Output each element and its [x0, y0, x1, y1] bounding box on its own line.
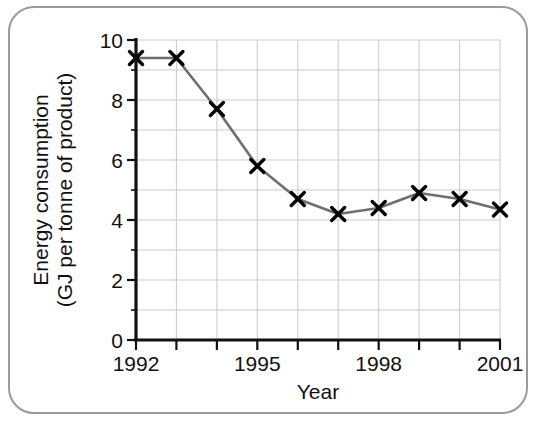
x-tick-label-1995: 1995 — [234, 352, 281, 375]
x-tick-label-1992: 1992 — [113, 352, 160, 375]
y-tick-label-2: 2 — [111, 269, 123, 292]
y-tick-label-8: 8 — [111, 89, 123, 112]
y-tick-label-10: 10 — [100, 29, 123, 52]
x-axis-title: Year — [297, 380, 339, 403]
y-axis-title-line2: (GJ per tonne of product) — [53, 73, 76, 308]
y-gridlines — [136, 40, 500, 310]
y-tick-label-6: 6 — [111, 149, 123, 172]
data-series-line — [136, 58, 500, 214]
y-tick-label-4: 4 — [111, 209, 123, 232]
figure-root: 10 8 6 4 2 0 1992 1995 1998 2001 Year En… — [0, 0, 544, 428]
x-tick-label-2001: 2001 — [477, 352, 524, 375]
y-axis-title-line1: Energy consumption — [29, 94, 52, 285]
y-tick-label-0: 0 — [111, 329, 123, 352]
x-tick-label-1998: 1998 — [355, 352, 402, 375]
data-point-markers — [130, 52, 507, 221]
line-chart: 10 8 6 4 2 0 1992 1995 1998 2001 Year En… — [0, 0, 544, 428]
